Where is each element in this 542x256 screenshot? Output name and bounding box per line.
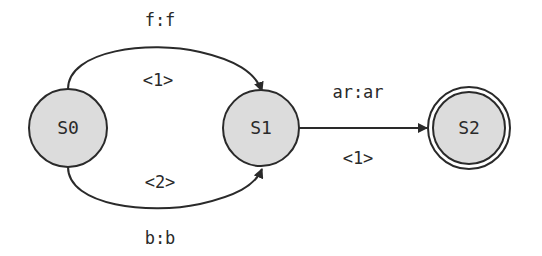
state-s0: S0 bbox=[29, 89, 107, 167]
edge-weight-label: <1> bbox=[343, 148, 374, 168]
edge-io-label: b:b bbox=[145, 228, 176, 248]
state-s2-final: S2 bbox=[428, 87, 510, 169]
edge-io-label: f:f bbox=[145, 10, 176, 30]
state-s1: S1 bbox=[223, 90, 299, 166]
state-label: S1 bbox=[250, 117, 272, 138]
edge-s1-s2-ar: ar:ar <1> bbox=[299, 82, 427, 168]
edge-io-label: ar:ar bbox=[332, 82, 383, 102]
edge-weight-label: <2> bbox=[145, 172, 176, 192]
fst-diagram: f:f <1> <2> b:b ar:ar <1> S0 S1 S2 bbox=[0, 0, 542, 256]
edge-weight-label: <1> bbox=[143, 70, 174, 90]
state-label: S0 bbox=[57, 117, 79, 138]
edge-s0-s1-b: <2> b:b bbox=[68, 167, 262, 248]
edge-s0-s1-f: f:f <1> bbox=[68, 10, 262, 91]
state-label: S2 bbox=[458, 117, 480, 138]
